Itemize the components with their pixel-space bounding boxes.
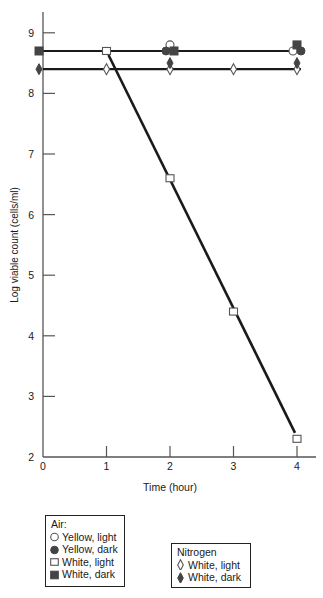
filled-diamond-icon [36,64,42,75]
y-tick-label: 9 [28,27,34,39]
legend-nitrogen: Nitrogen White, light White, dark [171,543,251,588]
open-circle-icon [49,531,60,542]
filled-square-icon [170,47,178,55]
legend-item: White, dark [49,568,120,581]
open-square-icon [230,308,238,315]
legend-nitrogen-title: Nitrogen [175,546,246,559]
x-axis-label: Time (hour) [143,481,197,493]
x-tick-label: 3 [231,460,237,472]
legend-label: White, dark [188,571,241,584]
legend-label: White, light [188,559,240,572]
x-tick-label: 1 [104,460,110,472]
legend-label: Yellow, light [62,531,116,544]
data-lines [43,51,301,433]
y-tick-label: 2 [28,451,34,463]
decline-line [109,55,296,433]
y-tick-label: 5 [28,269,34,281]
chart-canvas: 2345678901234 Time (hour) Log viable cou… [0,0,323,510]
y-tick-label: 6 [28,209,34,221]
x-tick-label: 4 [294,460,300,472]
y-tick-label: 8 [28,87,34,99]
filled-circle-icon [49,544,60,555]
y-tick-label: 7 [28,148,34,160]
legend-air: Air: Yellow, light Yellow, dark White, l… [45,515,125,587]
legend-air-title: Air: [49,518,120,531]
y-axis-label: Log viable count (cells/ml) [9,187,20,303]
legend-label: White, dark [62,568,115,581]
open-square-icon [49,556,60,567]
legend-label: White, light [62,556,114,569]
legend-item: White, light [175,559,246,572]
data-markers [35,41,305,442]
open-square-icon [166,175,174,182]
legend-item: Yellow, dark [49,543,120,556]
x-tick-label: 2 [167,460,173,472]
filled-square-icon [49,569,60,580]
open-square-icon [293,435,301,442]
open-diamond-icon [175,559,186,570]
open-square-icon [103,47,111,54]
legend-item: White, dark [175,571,246,584]
open-diamond-icon [104,64,110,75]
open-diamond-icon [231,64,237,75]
legend-label: Yellow, dark [62,543,118,556]
y-tick-label: 3 [28,390,34,402]
x-tick-label: 0 [40,460,46,472]
axes: 2345678901234 [28,12,316,472]
legend-item: Yellow, light [49,531,120,544]
filled-diamond-icon [175,572,186,583]
legend-item: White, light [49,556,120,569]
filled-square-icon [293,41,301,49]
filled-square-icon [35,47,43,55]
y-tick-label: 4 [28,330,34,342]
filled-circle-icon [162,47,170,55]
